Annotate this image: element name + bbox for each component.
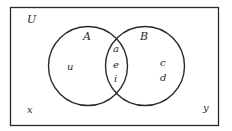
set-a-label: A bbox=[82, 30, 91, 43]
element-i: i bbox=[114, 73, 117, 84]
element-e: e bbox=[113, 59, 119, 70]
element-x: x bbox=[27, 104, 33, 115]
element-a: a bbox=[113, 43, 119, 54]
universe-label: U bbox=[27, 13, 37, 26]
element-c: c bbox=[160, 57, 166, 68]
element-u: u bbox=[67, 61, 73, 72]
element-d: d bbox=[160, 72, 166, 83]
element-y: y bbox=[202, 102, 209, 113]
venn-diagram: U A B u a e i c d x y bbox=[0, 0, 232, 131]
set-b-label: B bbox=[139, 30, 148, 43]
